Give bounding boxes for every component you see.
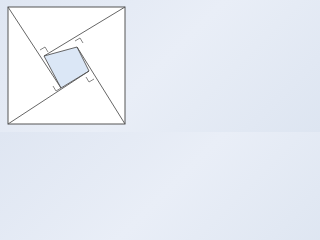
geometric-figure bbox=[0, 0, 129, 132]
